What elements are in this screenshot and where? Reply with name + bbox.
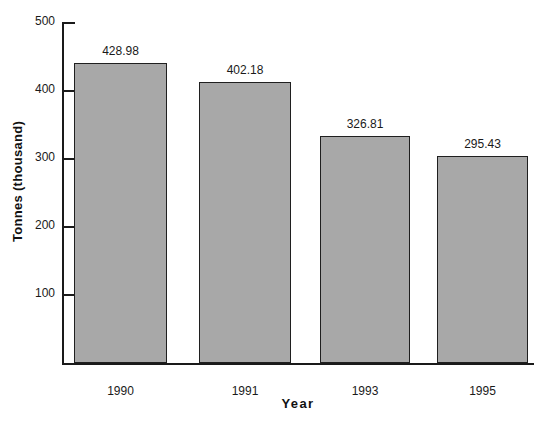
bar-1995[interactable]: 295.43 [437, 156, 528, 363]
bar-1991[interactable]: 402.18 [199, 82, 291, 363]
plot-area: 500 400 300 200 100 428.98 402.18 326.81 [62, 16, 552, 364]
y-tick-label: 300 [35, 150, 55, 164]
bar-value-label: 295.43 [464, 137, 501, 151]
bar-value-label: 326.81 [347, 117, 384, 131]
y-tick-label: 100 [35, 286, 55, 300]
y-axis-line [62, 22, 64, 363]
y-axis-title-text: Tonnes (thousand) [11, 121, 26, 242]
bar-value-label: 402.18 [227, 63, 264, 77]
x-axis-title: Year [62, 396, 534, 411]
y-tick-label: 400 [35, 82, 55, 96]
bar-1990[interactable]: 428.98 [74, 63, 167, 363]
x-axis-line [62, 363, 534, 365]
bar-value-label: 428.98 [102, 44, 139, 58]
bar-chart-figure: Tonnes (thousand) 500 400 300 200 100 42… [0, 0, 556, 424]
y-axis-title: Tonnes (thousand) [6, 0, 30, 363]
bar-1993[interactable]: 326.81 [320, 136, 410, 363]
y-tick-mark [64, 22, 75, 24]
y-tick-label: 200 [35, 218, 55, 232]
y-tick-label: 500 [35, 14, 55, 28]
